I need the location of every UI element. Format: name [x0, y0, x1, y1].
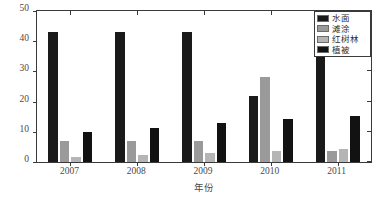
- legend-item-3[interactable]: 植被: [317, 45, 368, 56]
- legend-item-1[interactable]: 滩涂: [317, 24, 368, 35]
- legend-swatch-icon: [317, 46, 329, 53]
- bar-2009-series-3: [217, 123, 227, 162]
- bar-2010-series-0: [249, 96, 259, 162]
- legend-swatch-icon: [317, 36, 329, 43]
- y-axis-tick-mark-right: [367, 161, 371, 162]
- bar-2010-series-1: [260, 77, 270, 162]
- bar-2009-series-1: [194, 141, 204, 162]
- x-axis-tick-label-2011: 2011: [327, 166, 346, 176]
- x-axis-tick-label-2008: 2008: [127, 166, 146, 176]
- chart-legend: 水面滩涂红树林植被: [314, 11, 371, 57]
- bar-2011-series-1: [327, 151, 337, 162]
- y-axis-tick-label: 20: [20, 95, 30, 105]
- y-axis-tick-mark: [33, 11, 37, 12]
- bar-2008-series-3: [150, 128, 160, 162]
- x-axis-tick-label-2010: 2010: [260, 166, 279, 176]
- bar-2011-series-2: [339, 149, 349, 162]
- x-axis-tick-mark-top: [137, 11, 138, 15]
- legend-item-label: 滩涂: [332, 25, 350, 34]
- legend-swatch-icon: [317, 25, 329, 32]
- legend-item-2[interactable]: 红树林: [317, 34, 368, 45]
- x-axis-tick-label-2007: 2007: [60, 166, 79, 176]
- bar-2007-series-2: [71, 157, 81, 162]
- bar-2008-series-1: [127, 141, 137, 162]
- bar-2010-series-3: [283, 119, 293, 162]
- legend-item-0[interactable]: 水面: [317, 13, 368, 24]
- bar-2011-series-3: [350, 116, 360, 162]
- bar-2008-series-2: [138, 155, 148, 162]
- x-axis-tick-mark-top: [271, 11, 272, 15]
- y-axis-tick-label: 40: [20, 34, 30, 44]
- y-axis-tick-mark: [33, 132, 37, 133]
- legend-item-label: 水面: [332, 14, 350, 23]
- legend-item-label: 植被: [332, 46, 350, 55]
- x-axis-title: 年份: [194, 180, 214, 194]
- y-axis-tick-mark: [33, 71, 37, 72]
- bar-2010-series-2: [272, 151, 282, 162]
- bar-2009-series-2: [205, 153, 215, 162]
- y-axis-tick-mark: [33, 102, 37, 103]
- y-axis-tick-label: 30: [20, 64, 30, 74]
- legend-swatch-icon: [317, 15, 329, 22]
- y-axis-tick-mark-right: [367, 70, 371, 71]
- bar-2008-series-0: [115, 32, 125, 162]
- bar-chart-figure: 01020304050 面积（×104m2） 年份 水面滩涂红树林植被 2007…: [0, 0, 382, 203]
- y-axis-tick-label: 50: [20, 4, 30, 14]
- y-axis-tick-mark: [33, 41, 37, 42]
- bar-2007-series-3: [83, 132, 93, 162]
- x-axis-tick-mark-top: [204, 11, 205, 15]
- y-axis-tick-mark-right: [367, 131, 371, 132]
- x-axis-tick-label-2009: 2009: [194, 166, 213, 176]
- y-axis-tick-label: 0: [24, 155, 29, 165]
- legend-item-label: 红树林: [332, 35, 359, 44]
- bar-2009-series-0: [182, 32, 192, 162]
- y-axis-tick-label: 10: [20, 125, 30, 135]
- y-axis-tick-mark: [33, 162, 37, 163]
- x-axis-tick-mark-top: [70, 11, 71, 15]
- bar-2007-series-0: [48, 32, 58, 162]
- bar-2007-series-1: [60, 141, 70, 162]
- y-axis-tick-mark-right: [367, 101, 371, 102]
